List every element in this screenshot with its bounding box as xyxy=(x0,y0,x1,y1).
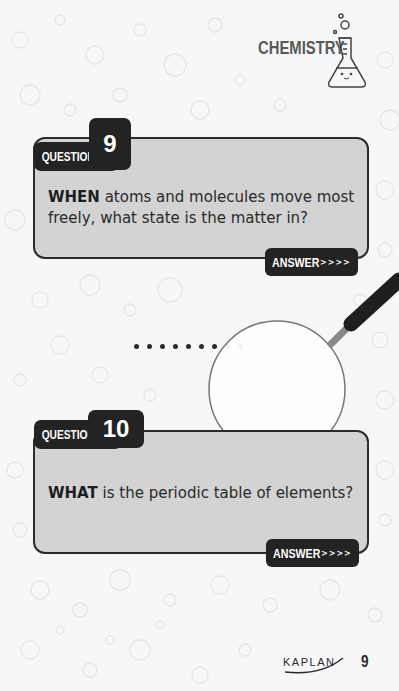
question-text-9: WHEN atoms and molecules move most freel… xyxy=(48,187,368,229)
question-tab-10: QUESTION 10 xyxy=(34,420,122,449)
question-lead-word: WHAT xyxy=(48,484,98,502)
question-lead-word: WHEN xyxy=(48,188,100,206)
arrows-icon: >>>> xyxy=(321,549,352,558)
publisher-name: KAPLAN xyxy=(283,656,335,668)
answer-label: ANSWER xyxy=(273,546,309,561)
question-number: 9 xyxy=(89,118,131,170)
question-tab-9: QUESTION 9 xyxy=(34,142,119,171)
question-label: QUESTION xyxy=(34,428,95,442)
arrows-icon: >>>> xyxy=(320,258,351,267)
question-text-10: WHAT is the periodic table of elements? xyxy=(48,483,368,504)
kaplan-logo: KAPLAN xyxy=(281,648,351,678)
answer-button-10[interactable]: ANSWER >>>> xyxy=(266,539,359,567)
question-body: is the periodic table of elements? xyxy=(98,484,353,502)
question-label: QUESTION xyxy=(34,150,95,164)
question-number: 10 xyxy=(88,410,144,448)
answer-label: ANSWER xyxy=(272,255,308,270)
flask-icon xyxy=(325,10,380,90)
page-number: 9 xyxy=(361,652,369,672)
